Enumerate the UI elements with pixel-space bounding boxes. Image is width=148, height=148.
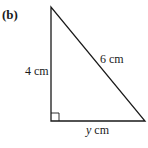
vertical-side-label: 4 cm [25, 65, 49, 77]
triangle-outline [51, 7, 145, 121]
triangle-figure: (b) 4 cm 6 cm y cm [0, 0, 148, 148]
hypotenuse-label: 6 cm [100, 53, 124, 65]
base-unit: cm [91, 123, 109, 137]
part-label: (b) [2, 8, 18, 21]
base-side-label: y cm [86, 124, 109, 136]
right-angle-marker [51, 113, 59, 121]
right-triangle-diagram [0, 0, 148, 148]
